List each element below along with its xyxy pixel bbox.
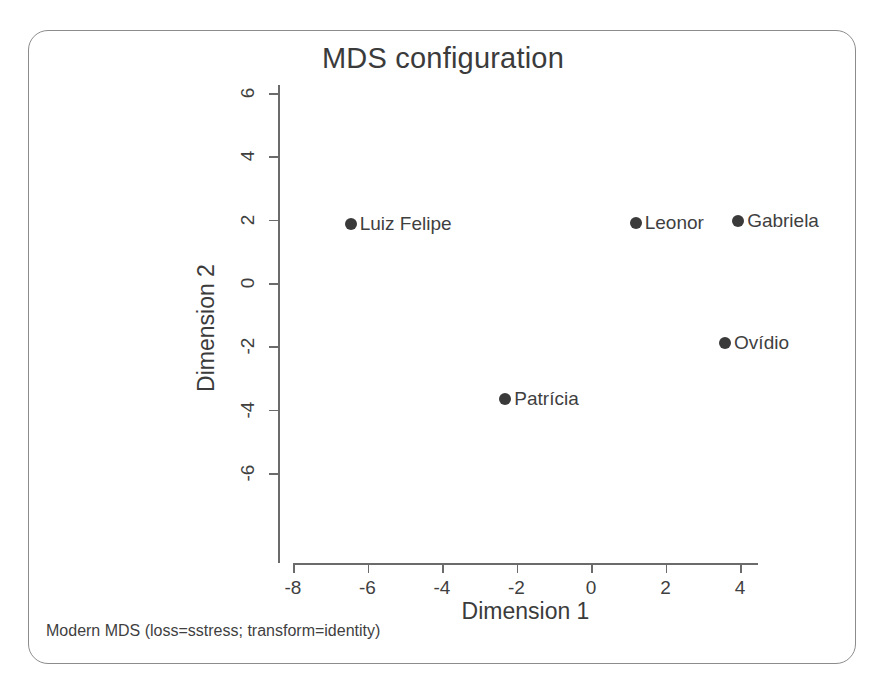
y-tick-label: -4 xyxy=(237,401,259,418)
y-tick-mark xyxy=(269,93,278,95)
y-tick-label: -2 xyxy=(237,338,259,355)
y-tick-label: -6 xyxy=(237,464,259,481)
figure-footnote: Modern MDS (loss=sstress; transform=iden… xyxy=(46,622,380,640)
y-tick-label: 6 xyxy=(237,88,259,99)
y-tick-label: 4 xyxy=(237,151,259,162)
x-tick-label: -2 xyxy=(508,577,525,599)
x-tick-label: 4 xyxy=(735,577,746,599)
y-tick-mark xyxy=(269,410,278,412)
y-axis-title: Dimension 2 xyxy=(193,264,220,392)
y-tick-label: 2 xyxy=(237,214,259,225)
y-tick-mark xyxy=(269,473,278,475)
x-tick-mark xyxy=(517,564,519,573)
x-tick-label: -8 xyxy=(285,577,302,599)
mds-configuration-figure: MDS configuration -8-6-4-2024 -6-4-20246… xyxy=(0,0,886,695)
x-tick-mark xyxy=(293,564,295,573)
x-tick-mark xyxy=(591,564,593,573)
x-axis-line xyxy=(293,563,758,565)
x-tick-label: -6 xyxy=(359,577,376,599)
y-tick-label: 0 xyxy=(237,278,259,289)
chart-title: MDS configuration xyxy=(0,42,886,75)
x-tick-mark xyxy=(666,564,668,573)
x-tick-label: 2 xyxy=(660,577,671,599)
x-tick-mark xyxy=(442,564,444,573)
y-tick-mark xyxy=(269,156,278,158)
y-tick-mark xyxy=(269,346,278,348)
y-tick-mark xyxy=(269,220,278,222)
y-tick-mark xyxy=(269,283,278,285)
y-axis-line xyxy=(278,85,280,563)
x-tick-mark xyxy=(740,564,742,573)
x-tick-mark xyxy=(368,564,370,573)
x-tick-label: 0 xyxy=(586,577,597,599)
x-axis-title: Dimension 1 xyxy=(293,598,758,625)
x-tick-label: -4 xyxy=(434,577,451,599)
